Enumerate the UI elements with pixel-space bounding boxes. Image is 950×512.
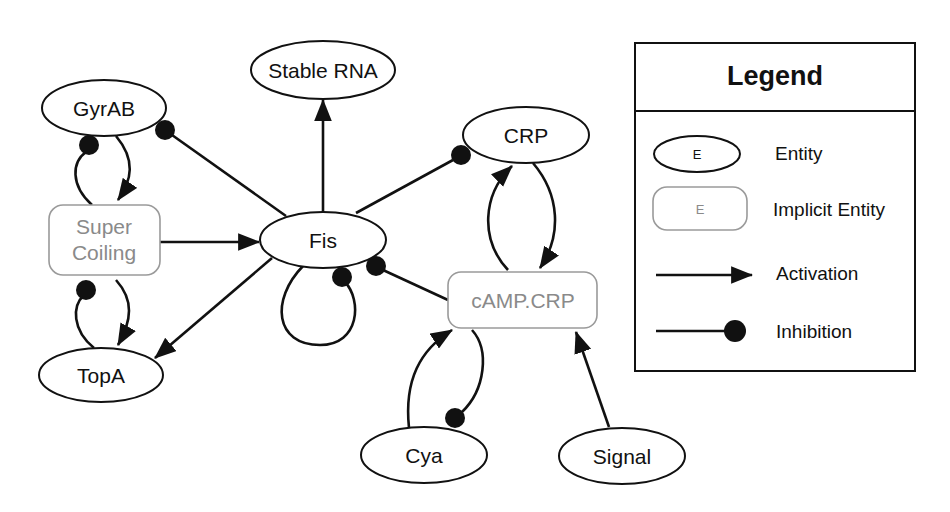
node-camp-crp[interactable]: cAMP.CRP	[448, 272, 597, 328]
node-supercoiling[interactable]: Super Coiling	[49, 205, 160, 275]
node-label: GyrAB	[73, 97, 135, 120]
inhibition-dot-icon	[332, 267, 352, 287]
edge-crp-campcrp-activation	[533, 163, 555, 268]
legend-implicit-label: Implicit Entity	[773, 199, 885, 220]
node-label: Cya	[405, 444, 443, 467]
legend-inhibition-dot-icon	[724, 320, 746, 342]
edge-gyrab-supercoiling-activation	[116, 136, 130, 200]
edge-fis-topa-activation	[155, 258, 272, 358]
edge-signal-campcrp-activation	[576, 332, 609, 427]
node-label: Fis	[309, 229, 337, 252]
node-topa[interactable]: TopA	[39, 348, 163, 402]
legend-entity-label: Entity	[775, 143, 823, 164]
node-label-line2: Coiling	[72, 241, 136, 264]
edge-campcrp-cya-inhibition	[462, 330, 483, 412]
node-gyrab[interactable]: GyrAB	[42, 80, 166, 136]
legend: Legend E Entity E Implicit Entity Activa…	[635, 43, 915, 371]
node-label-line1: Super	[76, 215, 132, 238]
node-signal[interactable]: Signal	[559, 428, 685, 484]
edge-campcrp-crp-activation	[488, 166, 512, 270]
edge-fis-crp-inhibition	[356, 160, 453, 213]
node-label: Stable RNA	[268, 59, 378, 82]
legend-entity-symbol: E	[693, 147, 702, 162]
node-label: CRP	[504, 124, 548, 147]
edge-supercoiling-gyrab-inhibition	[75, 152, 92, 205]
node-label: Signal	[593, 445, 651, 468]
network-diagram: GyrAB Stable RNA CRP Fis Super Coiling T…	[0, 0, 950, 512]
legend-title: Legend	[727, 61, 823, 91]
legend-implicit-symbol: E	[696, 202, 705, 217]
edge-cya-campcrp-activation	[408, 330, 452, 428]
legend-inhibition-label: Inhibition	[776, 321, 852, 342]
edge-topa-supercoiling-inhibition	[76, 295, 94, 348]
node-label: cAMP.CRP	[471, 289, 574, 312]
edge-fis-gyrab-inhibition	[172, 135, 286, 216]
inhibition-dot-icon	[79, 135, 99, 155]
node-crp[interactable]: CRP	[463, 107, 589, 163]
edge-campcrp-fis-inhibition	[383, 270, 448, 300]
inhibition-dot-icon	[76, 280, 96, 300]
node-cya[interactable]: Cya	[361, 427, 487, 483]
node-fis[interactable]: Fis	[260, 212, 386, 268]
node-label: TopA	[77, 364, 125, 387]
node-stable-rna[interactable]: Stable RNA	[251, 41, 395, 99]
edge-supercoiling-topa-activation	[116, 280, 129, 345]
legend-activation-label: Activation	[776, 263, 858, 284]
inhibition-dot-icon	[445, 408, 465, 428]
inhibition-dot-icon	[451, 145, 471, 165]
